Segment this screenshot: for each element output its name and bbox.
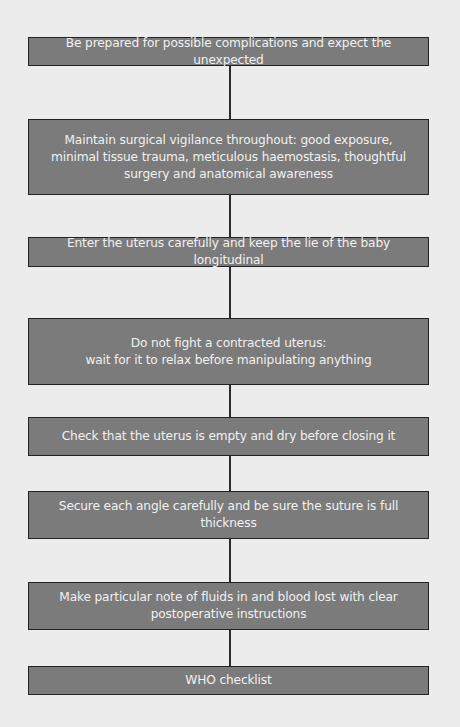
connector-5-6: [229, 456, 231, 491]
connector-4-5: [229, 385, 231, 417]
step-text-1: Be prepared for possible complications a…: [43, 35, 414, 69]
step-text-6: Secure each angle carefully and be sure …: [43, 498, 414, 532]
connector-3-4: [229, 267, 231, 318]
step-text-4: Do not fight a contracted uterus: wait f…: [85, 335, 371, 369]
step-text-8: WHO checklist: [185, 672, 271, 689]
step-text-2: Maintain surgical vigilance throughout: …: [51, 132, 406, 183]
step-box-6: Secure each angle carefully and be sure …: [28, 491, 429, 539]
connector-7-8: [229, 630, 231, 666]
step-text-3: Enter the uterus carefully and keep the …: [43, 235, 414, 269]
connector-2-3: [229, 195, 231, 237]
step-box-5: Check that the uterus is empty and dry b…: [28, 417, 429, 456]
step-box-8: WHO checklist: [28, 666, 429, 695]
step-box-7: Make particular note of fluids in and bl…: [28, 582, 429, 630]
step-box-3: Enter the uterus carefully and keep the …: [28, 237, 429, 267]
step-box-4: Do not fight a contracted uterus: wait f…: [28, 318, 429, 385]
connector-1-2: [229, 66, 231, 119]
step-text-5: Check that the uterus is empty and dry b…: [62, 428, 396, 445]
step-box-1: Be prepared for possible complications a…: [28, 37, 429, 66]
step-box-2: Maintain surgical vigilance throughout: …: [28, 119, 429, 195]
step-text-7: Make particular note of fluids in and bl…: [59, 589, 397, 623]
connector-6-7: [229, 539, 231, 582]
